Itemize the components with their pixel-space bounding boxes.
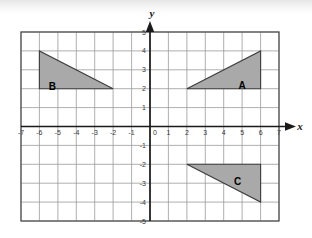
y-tick--4: -4 <box>140 199 146 206</box>
x-tick--7: -7 <box>18 129 24 136</box>
x-tick-3: 3 <box>203 129 207 136</box>
y-tick--3: -3 <box>140 180 146 187</box>
x-tick-6: 6 <box>259 129 263 136</box>
x-tick--4: -4 <box>73 129 79 136</box>
x-tick--2: -2 <box>110 129 116 136</box>
y-axis-arrow-icon <box>146 21 154 32</box>
coordinate-plane-svg: x y -7 -6 -5 -4 -3 -2 -1 0 1 2 3 4 5 6 7… <box>0 0 312 238</box>
x-axis-name: x <box>296 120 303 132</box>
x-tick--6: -6 <box>36 129 42 136</box>
y-tick--5: -5 <box>140 218 146 225</box>
triangle-c-label: C <box>234 176 241 187</box>
x-tick--5: -5 <box>55 129 61 136</box>
x-tick-4: 4 <box>222 129 226 136</box>
x-tick-2: 2 <box>185 129 189 136</box>
y-tick-4: 4 <box>142 47 146 54</box>
y-tick--1: -1 <box>140 142 146 149</box>
x-tick--3: -3 <box>92 129 98 136</box>
y-tick-1: 1 <box>142 104 146 111</box>
x-tick-5: 5 <box>240 129 244 136</box>
coordinate-plane-figure: x y -7 -6 -5 -4 -3 -2 -1 0 1 2 3 4 5 6 7… <box>0 0 312 238</box>
triangle-a-label: A <box>238 80 245 91</box>
y-tick-5: 5 <box>142 29 146 36</box>
x-tick-1: 1 <box>166 129 170 136</box>
y-tick-2: 2 <box>142 85 146 92</box>
x-tick-7: 7 <box>277 129 281 136</box>
x-axis-arrow-icon <box>285 122 296 130</box>
y-tick-3: 3 <box>142 66 146 73</box>
triangle-b-label: B <box>49 81 56 92</box>
y-axis-name: y <box>148 7 155 19</box>
y-tick--2: -2 <box>140 161 146 168</box>
x-tick-0: 0 <box>153 129 157 136</box>
x-tick--1: -1 <box>128 129 134 136</box>
